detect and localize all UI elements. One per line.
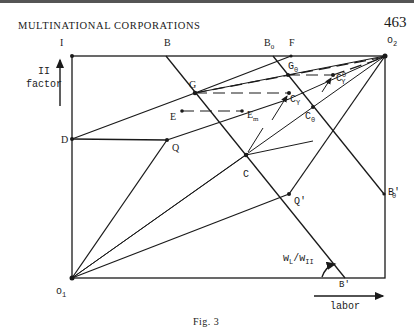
line-B0-B0prime bbox=[273, 56, 384, 194]
label-I: I bbox=[60, 38, 63, 48]
label-B0: B0 bbox=[264, 38, 274, 51]
label-CY0: C0Y bbox=[336, 72, 345, 86]
point-Q bbox=[165, 138, 169, 142]
label-Em: Em bbox=[247, 110, 259, 123]
point-F bbox=[289, 54, 292, 57]
point-Em bbox=[240, 109, 244, 113]
label-O2: o2 bbox=[387, 36, 397, 48]
line-D-G-F bbox=[72, 56, 291, 139]
label-O1: o1 bbox=[56, 287, 66, 299]
point-Qprime bbox=[287, 192, 291, 196]
label-G0: G0 bbox=[288, 62, 298, 74]
label-B0prime: B'0 bbox=[388, 188, 396, 200]
point-E bbox=[180, 109, 184, 113]
label-E: E bbox=[170, 112, 176, 122]
arrow-to-CY bbox=[272, 96, 287, 120]
label-Q: Q bbox=[172, 143, 179, 153]
label-B: B bbox=[164, 38, 171, 48]
label-Bprime: B' bbox=[339, 281, 350, 290]
point-D bbox=[70, 137, 74, 141]
angle-label-wage-ratio: wL/wII bbox=[283, 254, 314, 266]
label-Qprime: Q' bbox=[294, 197, 306, 207]
line-D-Q bbox=[72, 139, 167, 140]
horizontal-axis-label: labor bbox=[330, 302, 360, 312]
line-O1-Q bbox=[72, 140, 167, 278]
point-O1 bbox=[70, 276, 75, 281]
label-D: D bbox=[61, 135, 68, 145]
edgeworth-box-diagram bbox=[0, 0, 414, 336]
label-CY: CY bbox=[290, 95, 300, 107]
point-I bbox=[70, 54, 74, 58]
point-C0 bbox=[311, 105, 315, 109]
line-O1-Qprime bbox=[72, 194, 289, 278]
label-C: C bbox=[243, 170, 249, 180]
point-C bbox=[244, 153, 248, 157]
label-G: G bbox=[189, 80, 196, 90]
point-B0prime bbox=[382, 192, 385, 195]
figure-caption: Fig. 3 bbox=[193, 316, 219, 327]
angle-arc-icon bbox=[322, 264, 335, 277]
label-F: F bbox=[289, 38, 295, 48]
label-C0: C0 bbox=[305, 112, 315, 124]
point-O2 bbox=[383, 54, 388, 59]
point-G bbox=[193, 91, 198, 96]
point-CY0 bbox=[331, 73, 335, 77]
arrow-to-CY0 bbox=[322, 78, 331, 92]
vertical-axis-label: IIfactor bbox=[32, 67, 56, 90]
